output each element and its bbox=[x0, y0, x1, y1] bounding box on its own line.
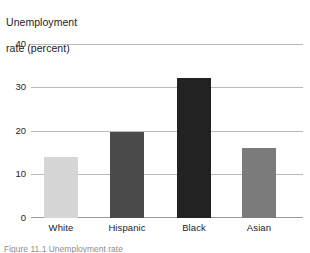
bar-white[interactable] bbox=[44, 157, 78, 218]
figure-caption-clipped: Figure 11.1 Unemployment rate bbox=[4, 245, 304, 253]
bar-chart: Unemployment rate (percent) 40 30 20 10 … bbox=[0, 0, 310, 253]
x-label-black: Black bbox=[164, 222, 224, 234]
x-label-hispanic: Hispanic bbox=[97, 222, 157, 234]
bars-layer bbox=[31, 44, 303, 218]
x-label-white: White bbox=[31, 222, 91, 234]
figure-caption-text: Figure 11.1 Unemployment rate bbox=[4, 245, 123, 253]
bar-hispanic[interactable] bbox=[110, 132, 144, 218]
y-tick-label-0: 0 bbox=[2, 213, 26, 223]
x-label-asian: Asian bbox=[229, 222, 289, 234]
y-tick-label-20: 20 bbox=[2, 126, 26, 136]
y-tick-label-10: 10 bbox=[2, 169, 26, 179]
bar-black[interactable] bbox=[177, 78, 211, 218]
y-tick-label-30: 30 bbox=[2, 82, 26, 92]
chart-title-line-1: Unemployment bbox=[6, 16, 77, 28]
bar-asian[interactable] bbox=[242, 148, 276, 218]
x-axis-category-labels: White Hispanic Black Asian bbox=[31, 222, 303, 238]
plot-area bbox=[31, 44, 303, 218]
